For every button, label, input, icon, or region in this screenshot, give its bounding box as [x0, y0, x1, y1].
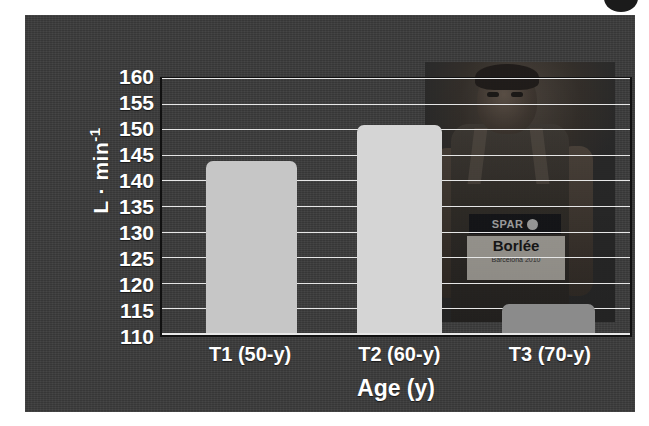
y-axis-tick-label: 150 — [119, 117, 154, 141]
y-axis-tick-label: 130 — [119, 221, 154, 245]
y-axis-tick-label: 155 — [119, 91, 154, 115]
y-axis-tick-label: 160 — [119, 65, 154, 89]
y-axis-tick-label: 120 — [119, 273, 154, 297]
gridline — [162, 104, 630, 105]
bar — [502, 304, 595, 335]
y-axis-tick-labels: 160155150145140135130125120115110 — [80, 77, 154, 337]
y-axis-tick-label: 115 — [120, 299, 154, 323]
page-corner-mark-icon — [604, 0, 638, 12]
y-axis-tick-label: 110 — [120, 325, 154, 349]
x-axis-tick-label: T1 (50-y) — [209, 343, 291, 366]
chart-panel: SPAR Borlée Barcelona 2010 L · min-1 160… — [25, 15, 635, 412]
bar — [357, 125, 442, 335]
x-axis-tick-label: T2 (60-y) — [358, 343, 440, 366]
figure-root: SPAR Borlée Barcelona 2010 L · min-1 160… — [0, 0, 649, 426]
x-axis-baseline — [162, 333, 630, 335]
y-axis-tick-label: 135 — [119, 195, 154, 219]
y-axis-tick-label: 140 — [119, 169, 154, 193]
y-axis-tick-label: 125 — [119, 247, 154, 271]
bar — [206, 161, 296, 335]
plot-area — [160, 77, 632, 337]
x-axis-tick-labels: T1 (50-y)T2 (60-y)T3 (70-y) — [160, 343, 632, 373]
x-axis-title: Age (y) — [160, 375, 632, 402]
x-axis-tick-label: T3 (70-y) — [509, 343, 591, 366]
y-axis-tick-label: 145 — [119, 143, 154, 167]
gridline — [162, 78, 630, 79]
